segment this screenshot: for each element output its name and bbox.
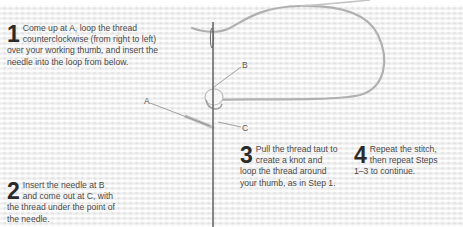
step-number: 1 <box>7 24 20 44</box>
leader-b <box>214 67 241 87</box>
thread-loop <box>192 6 384 100</box>
step-number: 4 <box>354 145 367 165</box>
knot <box>205 89 223 105</box>
step-number: 2 <box>7 181 20 201</box>
thread-top-right <box>300 0 370 6</box>
step-text: Insert the needle at B and come out at C… <box>7 180 115 224</box>
leader-a <box>150 103 210 126</box>
point-label-a: A <box>144 96 150 106</box>
step-text: Come up at A, loop the thread counterclo… <box>7 23 158 67</box>
step-3: 3 Pull the thread taut to create a knot … <box>240 144 338 189</box>
point-label-c: C <box>242 123 248 133</box>
stitch-instruction-page: A B C 1 Come up at A, loop the thread co… <box>0 0 463 227</box>
point-label-b: B <box>242 60 248 70</box>
step-4: 4 Repeat the stitch, then repeat Steps 1… <box>354 144 442 178</box>
step-1: 1 Come up at A, loop the thread counterc… <box>7 23 167 68</box>
step-number: 3 <box>240 145 253 165</box>
leader-c <box>218 122 241 127</box>
step-2: 2 Insert the needle at B and come out at… <box>7 180 115 225</box>
step-text: Pull the thread taut to create a knot an… <box>240 144 338 188</box>
